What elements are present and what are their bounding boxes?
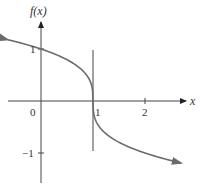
origin-label: 0 — [30, 106, 36, 118]
x-tick-label-1: 1 — [95, 106, 101, 118]
y-tick-label-neg-1: −1 — [22, 147, 34, 159]
x-tick-label-2: 2 — [142, 106, 148, 118]
y-tick-label-1: 1 — [30, 43, 36, 55]
y-axis-label: f(x) — [30, 4, 47, 18]
x-axis-label: x — [189, 94, 196, 108]
function-graph: f(x) x 0 1 2 1 −1 — [0, 0, 201, 190]
